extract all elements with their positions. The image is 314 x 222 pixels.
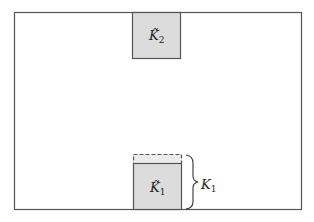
curly-brace <box>186 155 198 209</box>
top-square: K̃2 <box>133 13 181 59</box>
dashed-extension <box>134 155 182 164</box>
brace-label: K1 <box>200 177 216 194</box>
bottom-square: K̃1 <box>134 155 182 210</box>
diagram-canvas: K̃2 K̃1 K1 <box>0 0 314 222</box>
